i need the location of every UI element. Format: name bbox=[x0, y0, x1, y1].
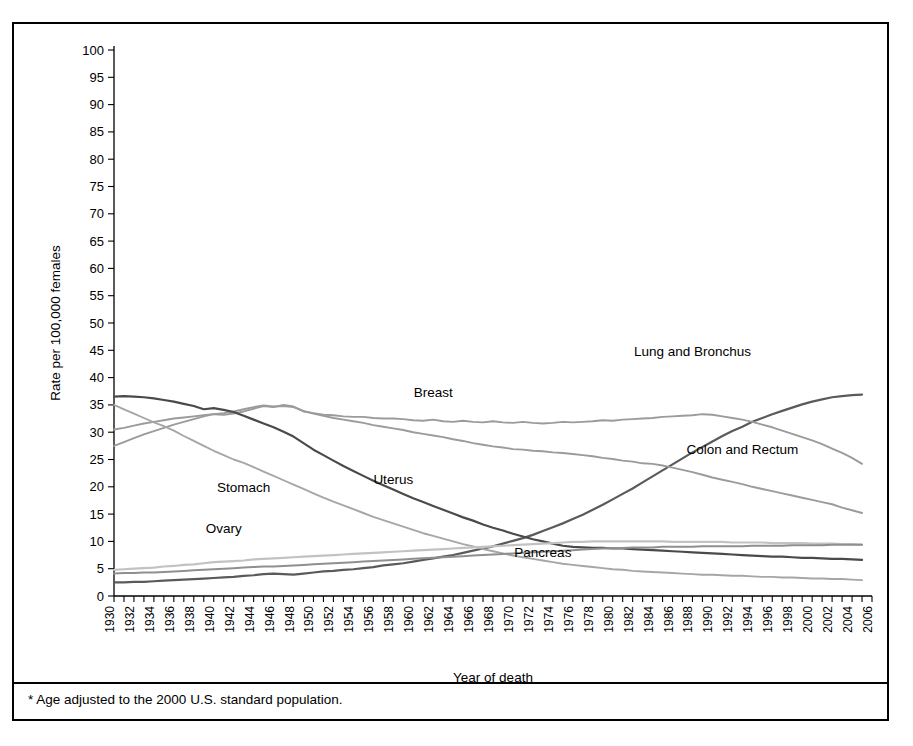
x-axis-tick-label: 1964 bbox=[442, 606, 456, 633]
y-axis-tick-label: 60 bbox=[90, 261, 104, 276]
y-axis-tick-label: 65 bbox=[90, 234, 104, 249]
y-axis-tick-label: 50 bbox=[90, 316, 104, 331]
series-label-breast: Breast bbox=[414, 385, 453, 400]
x-axis-tick-label: 1946 bbox=[263, 606, 277, 633]
x-axis-tick-label: 1940 bbox=[203, 606, 217, 633]
series-label-ovary: Ovary bbox=[206, 521, 242, 536]
x-axis-tick-label: 1968 bbox=[482, 606, 496, 633]
x-axis-tick-label: 1932 bbox=[123, 606, 137, 633]
x-axis-tick-label: 2000 bbox=[801, 606, 815, 633]
x-axis-tick-label: 1990 bbox=[701, 606, 715, 633]
y-axis-tick-label: 95 bbox=[90, 70, 104, 85]
x-axis-tick-label: 1994 bbox=[741, 606, 755, 633]
x-axis-tick-label: 1930 bbox=[103, 606, 117, 633]
x-axis-tick-label: 1980 bbox=[602, 606, 616, 633]
x-axis-tick-label: 2006 bbox=[861, 606, 875, 633]
x-axis-tick-label: 1934 bbox=[143, 606, 157, 633]
y-axis-tick-label: 25 bbox=[90, 452, 104, 467]
y-axis-tick-label: 80 bbox=[90, 152, 104, 167]
series-label-uterus: Uterus bbox=[373, 472, 413, 487]
series-line-pancreas bbox=[114, 545, 862, 574]
x-axis-tick-label: 1952 bbox=[322, 606, 336, 633]
x-axis-tick-label: 1944 bbox=[243, 606, 257, 633]
y-axis-tick-label: 85 bbox=[90, 124, 104, 139]
y-axis-tick-label: 20 bbox=[90, 479, 104, 494]
footnote-text: * Age adjusted to the 2000 U.S. standard… bbox=[28, 692, 342, 707]
x-axis-tick-label: 2004 bbox=[841, 606, 855, 633]
series-label-lung-and-bronchus: Lung and Bronchus bbox=[634, 344, 751, 359]
footnote-panel: * Age adjusted to the 2000 U.S. standard… bbox=[14, 684, 887, 719]
x-axis-tick-label: 1976 bbox=[562, 606, 576, 633]
x-axis-tick-label: 1950 bbox=[302, 606, 316, 633]
x-axis-tick-label: 1974 bbox=[542, 606, 556, 633]
y-axis-tick-label: 70 bbox=[90, 206, 104, 221]
x-axis-tick-label: 1986 bbox=[662, 606, 676, 633]
x-axis-tick-label: 1956 bbox=[362, 606, 376, 633]
x-axis-tick-label: 1960 bbox=[402, 606, 416, 633]
x-axis-tick-label: 1970 bbox=[502, 606, 516, 633]
x-axis-tick-label: 1936 bbox=[163, 606, 177, 633]
y-axis-tick-label: 15 bbox=[90, 507, 104, 522]
x-axis-tick-label: 1958 bbox=[382, 606, 396, 633]
x-axis-tick-label: 1962 bbox=[422, 606, 436, 633]
y-axis-tick-label: 100 bbox=[82, 43, 104, 58]
x-axis-tick-label: 1992 bbox=[721, 606, 735, 633]
figure-frame: 0510152025303540455055606570758085909510… bbox=[12, 22, 889, 721]
y-axis-title: Rate per 100,000 females bbox=[48, 245, 63, 401]
line-chart: 0510152025303540455055606570758085909510… bbox=[14, 24, 887, 682]
x-axis-tick-label: 1972 bbox=[522, 606, 536, 633]
y-axis-tick-label: 75 bbox=[90, 179, 104, 194]
x-axis-tick-label: 1988 bbox=[681, 606, 695, 633]
y-axis-tick-label: 55 bbox=[90, 288, 104, 303]
y-axis-tick-label: 30 bbox=[90, 425, 104, 440]
y-axis-tick-label: 5 bbox=[97, 561, 104, 576]
y-axis-tick-label: 90 bbox=[90, 97, 104, 112]
x-axis-tick-label: 2002 bbox=[821, 606, 835, 633]
series-label-colon-and-rectum: Colon and Rectum bbox=[686, 442, 798, 457]
y-axis-tick-label: 10 bbox=[90, 534, 104, 549]
x-axis-title: Year of death bbox=[453, 670, 533, 682]
x-axis-tick-label: 1966 bbox=[462, 606, 476, 633]
x-axis-tick-label: 1984 bbox=[642, 606, 656, 633]
chart-panel: 0510152025303540455055606570758085909510… bbox=[14, 24, 887, 682]
x-axis-tick-label: 1982 bbox=[622, 606, 636, 633]
x-axis-tick-label: 1998 bbox=[781, 606, 795, 633]
y-axis-tick-label: 0 bbox=[97, 589, 104, 604]
y-axis-tick-label: 40 bbox=[90, 370, 104, 385]
x-axis-tick-label: 1948 bbox=[283, 606, 297, 633]
x-axis-tick-label: 1996 bbox=[761, 606, 775, 633]
y-axis-tick-label: 45 bbox=[90, 343, 104, 358]
y-axis-tick-label: 35 bbox=[90, 397, 104, 412]
x-axis-tick-label: 1954 bbox=[342, 606, 356, 633]
x-axis-tick-label: 1942 bbox=[223, 606, 237, 633]
series-label-pancreas: Pancreas bbox=[514, 545, 571, 560]
x-axis-tick-label: 1938 bbox=[183, 606, 197, 633]
series-label-stomach: Stomach bbox=[217, 480, 270, 495]
figure-root: 0510152025303540455055606570758085909510… bbox=[0, 0, 913, 746]
x-axis-tick-label: 1978 bbox=[582, 606, 596, 633]
